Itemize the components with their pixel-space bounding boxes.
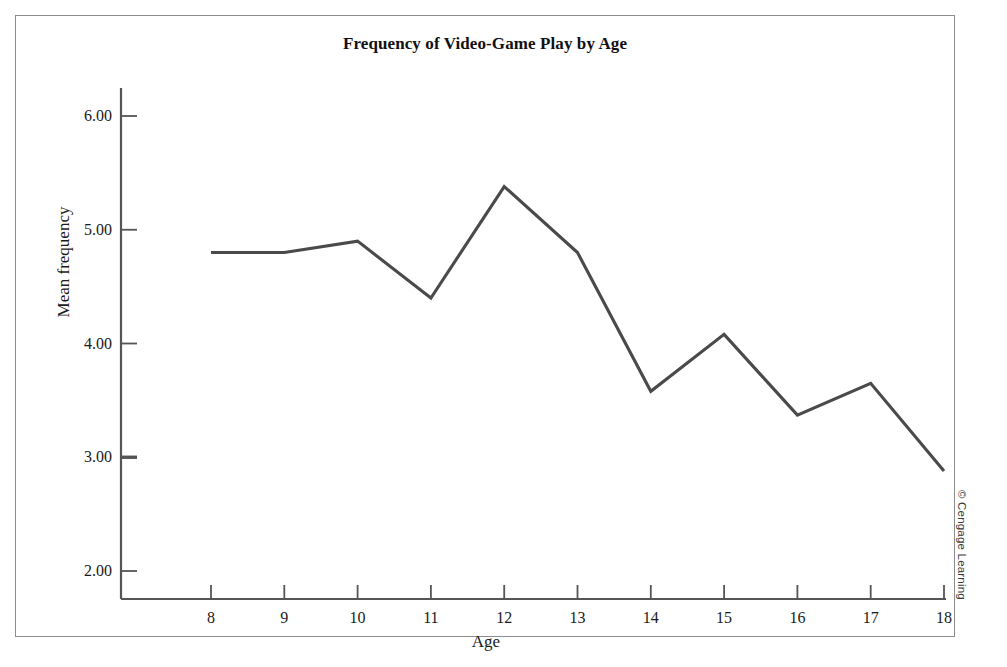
axes-group — [121, 88, 946, 599]
x-tick-label: 11 — [423, 609, 438, 627]
x-tick-label: 9 — [280, 609, 288, 627]
figure-frame: Frequency of Video-Game Play by Age 2.00… — [15, 15, 955, 637]
y-axis-ticks — [121, 116, 137, 571]
x-axis-label: Age — [16, 632, 956, 652]
x-tick-label: 15 — [716, 609, 732, 627]
x-tick-label: 10 — [350, 609, 366, 627]
line-chart-plot — [16, 16, 956, 638]
data-series-line — [211, 187, 944, 471]
x-tick-label: 13 — [570, 609, 586, 627]
x-axis-ticks — [211, 585, 944, 599]
y-axis-label: Mean frequency — [54, 162, 74, 362]
y-tick-label: 2.00 — [46, 562, 112, 580]
x-tick-label: 17 — [863, 609, 879, 627]
y-tick-label: 3.00 — [46, 448, 112, 466]
x-tick-label: 14 — [643, 609, 659, 627]
x-tick-label: 16 — [789, 609, 805, 627]
x-tick-label: 18 — [936, 609, 952, 627]
x-tick-label: 12 — [496, 609, 512, 627]
copyright-credit: © Cengage Learning — [956, 490, 968, 600]
y-tick-label: 6.00 — [46, 107, 112, 125]
x-tick-label: 8 — [207, 609, 215, 627]
